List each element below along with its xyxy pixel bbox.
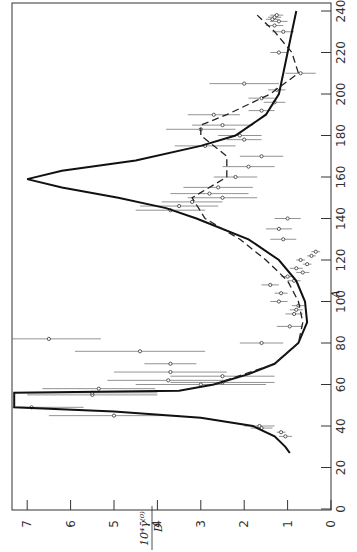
plot-frame	[12, 3, 331, 510]
svg-text:10⁴γ̄⁽⁰⁾: 10⁴γ̄⁽⁰⁾	[138, 511, 151, 546]
svg-text:80: 80	[334, 335, 348, 350]
svg-text:2: 2	[237, 520, 251, 528]
svg-text:220: 220	[334, 41, 348, 64]
svg-text:60: 60	[334, 377, 348, 392]
a-axis-title: A	[329, 290, 342, 299]
svg-text:140: 140	[334, 207, 348, 230]
svg-text:6: 6	[64, 520, 78, 528]
svg-text:200: 200	[334, 83, 348, 106]
chart: 020406080100120140160180200220240 012345…	[0, 0, 357, 552]
svg-text:7: 7	[20, 520, 34, 528]
value-axis-title: 10⁴γ̄⁽⁰⁾ D	[138, 506, 165, 550]
svg-text:40: 40	[334, 418, 348, 433]
svg-text:20: 20	[334, 460, 348, 475]
a-axis-ticks: 020406080100120140160180200220240	[321, 0, 348, 513]
value-axis-ticks: 01234567	[20, 500, 338, 528]
svg-text:240: 240	[334, 0, 348, 22]
data-points	[12, 14, 320, 438]
svg-text:160: 160	[334, 166, 348, 189]
svg-text:0: 0	[324, 520, 338, 528]
svg-text:D: D	[152, 523, 165, 533]
svg-text:0: 0	[334, 505, 348, 513]
svg-text:1: 1	[281, 520, 295, 528]
svg-text:5: 5	[107, 520, 121, 528]
dashed-curve	[192, 15, 303, 384]
svg-text:120: 120	[334, 249, 348, 272]
svg-text:180: 180	[334, 124, 348, 147]
svg-text:3: 3	[194, 520, 208, 528]
solid-curve	[14, 11, 307, 453]
